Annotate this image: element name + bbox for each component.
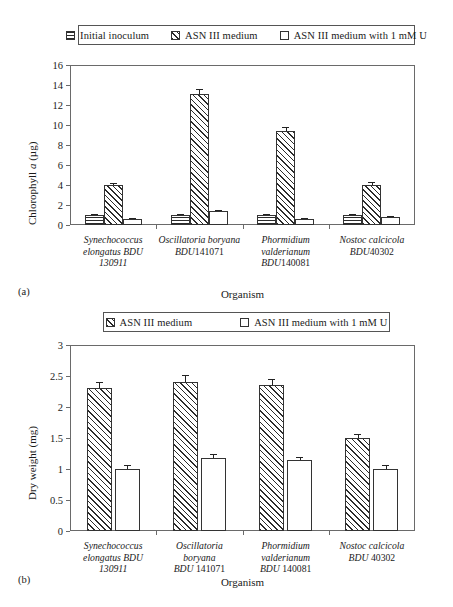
legend-item-label: ASN III medium with 1 mM U [254, 317, 387, 328]
panel-letter-a: (a) [18, 286, 30, 297]
error-bar [185, 375, 186, 382]
error-bar-cap [382, 465, 389, 466]
bar [123, 219, 142, 225]
y-axis-tick-mark [66, 145, 70, 146]
legend-item[interactable]: ASN III medium [106, 317, 193, 328]
error-bar-cap [210, 454, 217, 455]
y-axis-tick-mark [66, 185, 70, 186]
plot-area-chlorophyll: 0246810121416Synechococcuselongatus BDU1… [70, 65, 415, 225]
x-axis-label-a: Organism [70, 288, 415, 300]
x-axis-category-label: PhormidiumvalderianumBDU 140081 [239, 540, 333, 575]
x-axis-category-label: Oscillatoria boryanaBDU141071 [152, 234, 246, 257]
legend-item-label: ASN III medium with 1 mM U [294, 30, 427, 41]
error-bar-cap [110, 183, 117, 184]
error-bar-cap [263, 214, 270, 215]
hlines-swatch-icon [66, 31, 75, 40]
y-axis-tick-label: 3 [58, 340, 63, 351]
error-bar-cap [177, 214, 184, 215]
error-bar-cap [129, 218, 136, 219]
x-axis-tick-mark [329, 531, 330, 535]
x-axis-tick-mark [156, 225, 157, 229]
bar [87, 388, 112, 531]
figure-root: Initial inoculumASN III mediumASN III me… [0, 0, 453, 607]
y-axis-tick-label: 2 [58, 402, 63, 413]
bar [201, 458, 226, 531]
y-axis-tick-label: 16 [53, 60, 64, 71]
legend-item[interactable]: ASN III medium with 1 mM U [240, 317, 387, 328]
error-bar-cap [96, 382, 103, 383]
y-axis-tick-label: 1 [58, 464, 63, 475]
y-axis-tick-label: 12 [53, 100, 64, 111]
diag-swatch-icon [106, 318, 115, 327]
y-axis-tick-label: 2 [58, 200, 63, 211]
error-bar-cap [215, 210, 222, 211]
error-bar-cap [349, 214, 356, 215]
y-axis-tick-mark [66, 531, 70, 532]
x-axis-label-b: Organism [70, 576, 415, 588]
bar [85, 215, 104, 225]
error-bar-cap [387, 216, 394, 217]
bar [209, 211, 228, 225]
bar [381, 217, 400, 226]
bar [373, 469, 398, 531]
bar [190, 94, 209, 225]
y-axis-tick-mark [66, 469, 70, 470]
y-axis-tick-label: 14 [53, 80, 64, 91]
x-axis-tick-mark [243, 225, 244, 229]
y-axis-tick-mark [66, 225, 70, 226]
legend-item-label: ASN III medium [185, 30, 258, 41]
y-axis-tick-mark [66, 438, 70, 439]
y-axis-tick-mark [66, 345, 70, 346]
bar [259, 385, 284, 531]
x-axis-category-label: Nostoc calcicolaBDU40302 [325, 234, 419, 257]
y-axis-tick-mark [66, 105, 70, 106]
legend-item-label: Initial inoculum [80, 30, 149, 41]
error-bar-cap [282, 127, 289, 128]
y-axis-tick-label: 0 [58, 526, 63, 537]
y-axis-label-chlorophyll: Chlorophyll a (µg) [26, 142, 38, 225]
x-axis-tick-mark [156, 531, 157, 535]
y-axis-tick-mark [66, 125, 70, 126]
x-axis-tick-mark [243, 531, 244, 535]
y-axis-tick-mark [66, 205, 70, 206]
y-axis-tick-mark [66, 376, 70, 377]
y-axis-label-dryweight: Dry weight (mg) [26, 426, 38, 500]
panel-letter-b: (b) [18, 574, 30, 585]
error-bar-cap [296, 457, 303, 458]
legend-item[interactable]: ASN III medium [171, 30, 258, 41]
x-axis-tick-mark [329, 225, 330, 229]
bar [115, 469, 140, 531]
x-axis-category-label: OscillatoriaboryanaBDU 141071 [152, 540, 246, 575]
bar [257, 215, 276, 225]
bar [276, 131, 295, 225]
bar [104, 185, 123, 225]
dots-swatch-icon [280, 31, 289, 40]
error-bar-cap [124, 465, 131, 466]
y-axis-tick-label: 6 [58, 160, 63, 171]
legend-item[interactable]: ASN III medium with 1 mM U [280, 30, 427, 41]
y-axis-tick-label: 8 [58, 140, 63, 151]
bar [345, 438, 370, 531]
error-bar-cap [182, 375, 189, 376]
legend-item-label: ASN III medium [120, 317, 193, 328]
legend-item[interactable]: Initial inoculum [66, 30, 149, 41]
y-axis-tick-mark [66, 65, 70, 66]
legend-panel-a: Initial inoculumASN III mediumASN III me… [78, 25, 415, 45]
y-axis-tick-label: 2.5 [50, 371, 63, 382]
y-axis-tick-label: 1.5 [50, 433, 63, 444]
bar [343, 215, 362, 225]
error-bar-cap [354, 434, 361, 435]
y-axis-tick-label: 4 [58, 180, 63, 191]
dots-swatch-icon [240, 318, 249, 327]
bar [287, 460, 312, 531]
bar [362, 185, 381, 225]
error-bar-cap [301, 218, 308, 219]
bar [171, 215, 190, 225]
plot-area-dryweight: 00.511.522.53Synechococcuselongatus BDU1… [70, 345, 415, 531]
y-axis-tick-mark [66, 500, 70, 501]
y-axis-tick-label: 10 [53, 120, 64, 131]
error-bar-cap [368, 182, 375, 183]
bar [173, 382, 198, 531]
y-axis-tick-mark [66, 407, 70, 408]
y-axis-tick-mark [66, 85, 70, 86]
